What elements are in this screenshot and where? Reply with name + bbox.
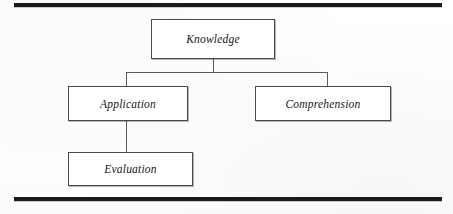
figure-canvas: Knowledge Application Comprehension Eval… xyxy=(0,0,453,214)
connector-drop-application xyxy=(126,72,127,87)
connector-horizontal-bus xyxy=(126,72,328,73)
horizontal-rule-top xyxy=(14,3,442,7)
connector-application-to-evaluation xyxy=(126,121,127,153)
node-evaluation: Evaluation xyxy=(68,152,193,186)
connector-drop-comprehension xyxy=(327,72,328,87)
node-evaluation-label: Evaluation xyxy=(104,163,156,175)
horizontal-rule-bottom xyxy=(14,197,442,201)
connector-knowledge-stub xyxy=(213,59,214,73)
node-application-label: Application xyxy=(100,98,156,110)
node-application: Application xyxy=(68,86,188,121)
node-knowledge-label: Knowledge xyxy=(186,33,240,45)
node-comprehension: Comprehension xyxy=(255,86,391,121)
node-comprehension-label: Comprehension xyxy=(285,98,360,110)
node-knowledge: Knowledge xyxy=(151,19,275,59)
